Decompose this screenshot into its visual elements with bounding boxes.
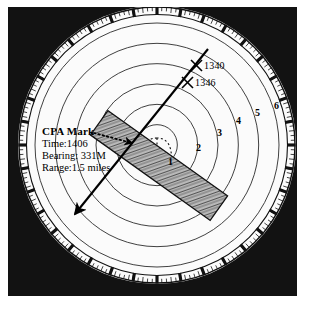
cpa-title: CPA Mark — [42, 126, 110, 138]
cpa-range: Range:1.5 miles — [42, 162, 110, 173]
cpa-bearing: Bearing: 331M — [42, 150, 110, 161]
radar-scope-panel: CPA Mark Time:1406 Bearing: 331M Range:1… — [8, 7, 297, 296]
target-label-1346: 1346 — [195, 78, 216, 89]
range-ring-label-1: 1 — [168, 156, 173, 167]
cpa-info-block: CPA Mark Time:1406 Bearing: 331M Range:1… — [42, 126, 110, 173]
range-ring-label-5: 5 — [255, 107, 260, 118]
range-ring-label-4: 4 — [236, 115, 241, 126]
target-label-1340: 1340 — [204, 61, 225, 72]
cpa-time: Time:1406 — [42, 138, 110, 149]
range-ring-label-2: 2 — [196, 142, 201, 153]
range-ring-label-3: 3 — [217, 127, 222, 138]
radar-plotting-figure: CPA Mark Time:1406 Bearing: 331M Range:1… — [0, 0, 309, 315]
range-ring-label-6: 6 — [274, 100, 279, 111]
